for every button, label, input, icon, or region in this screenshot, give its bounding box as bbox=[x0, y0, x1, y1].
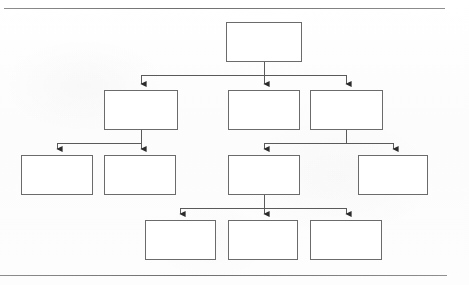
diagram-node[interactable] bbox=[228, 90, 300, 130]
diagram-node[interactable] bbox=[358, 155, 428, 195]
diagram-node-label bbox=[229, 221, 297, 259]
diagram-node-label bbox=[146, 221, 215, 259]
diagram-node[interactable] bbox=[226, 22, 302, 62]
diagram-node[interactable] bbox=[145, 220, 216, 260]
diagram-node-label bbox=[105, 91, 177, 129]
node-layer bbox=[0, 0, 469, 285]
diagram-node-label bbox=[227, 23, 301, 61]
diagram-node[interactable] bbox=[310, 220, 382, 260]
diagram-node[interactable] bbox=[104, 155, 176, 195]
diagram-node-label bbox=[311, 221, 381, 259]
diagram-node[interactable] bbox=[228, 155, 300, 195]
diagram-node-label bbox=[229, 91, 299, 129]
diagram-node-label bbox=[311, 91, 382, 129]
diagram-page bbox=[0, 0, 469, 285]
diagram-node-label bbox=[22, 156, 92, 194]
diagram-node[interactable] bbox=[104, 90, 178, 130]
diagram-node-label bbox=[229, 156, 299, 194]
diagram-node[interactable] bbox=[310, 90, 383, 130]
diagram-node-label bbox=[105, 156, 175, 194]
diagram-node[interactable] bbox=[21, 155, 93, 195]
diagram-node-label bbox=[359, 156, 427, 194]
diagram-node[interactable] bbox=[228, 220, 298, 260]
